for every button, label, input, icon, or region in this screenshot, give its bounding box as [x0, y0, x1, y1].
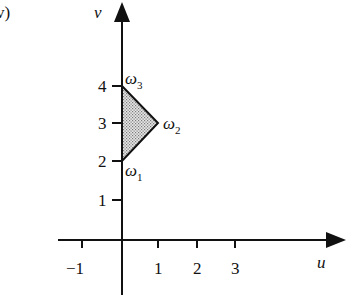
- v-tick-label: 1: [98, 191, 107, 210]
- u-tick-label: 2: [193, 259, 202, 278]
- u-ticks: [82, 240, 235, 248]
- u-axis-arrow-icon: [326, 232, 346, 248]
- svg-text:3: 3: [137, 79, 143, 91]
- u-tick-label: −1: [66, 259, 84, 278]
- svg-text:ω: ω: [125, 69, 137, 88]
- vertex-label-omega1: ω 1: [125, 161, 143, 183]
- v-tick-label: 3: [98, 114, 107, 133]
- vertex-label-omega2: ω 2: [163, 114, 181, 136]
- v-axis-label: v: [94, 3, 102, 22]
- u-tick-label: 1: [154, 259, 163, 278]
- v-tick-label: 2: [98, 152, 107, 171]
- svg-text:1: 1: [137, 171, 143, 183]
- v-ticks: [112, 86, 122, 200]
- u-axis-label: u: [317, 253, 326, 272]
- v-axis-arrow-icon: [114, 2, 130, 22]
- v-tick-label: 4: [98, 77, 107, 96]
- svg-text:2: 2: [175, 124, 181, 136]
- u-tick-label: 3: [231, 259, 240, 278]
- vertex-label-omega3: ω 3: [125, 69, 143, 91]
- diagram-canvas: v) −1 1 2 3 1 2 3 4 v u ω 3 ω 2 ω 1: [0, 0, 348, 295]
- shaded-region: [122, 86, 158, 161]
- svg-text:ω: ω: [163, 114, 175, 133]
- panel-label: v): [0, 3, 10, 22]
- svg-text:ω: ω: [125, 161, 137, 180]
